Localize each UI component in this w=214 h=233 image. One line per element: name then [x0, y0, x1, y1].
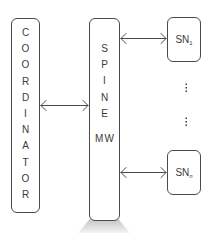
- arrow-spine-sn1: [121, 34, 166, 44]
- arrow-coordinator-spine: [41, 101, 88, 111]
- connector-arrows: [0, 0, 214, 233]
- arrow-spine-snn: [121, 168, 166, 178]
- ellipsis-icon: [186, 84, 188, 127]
